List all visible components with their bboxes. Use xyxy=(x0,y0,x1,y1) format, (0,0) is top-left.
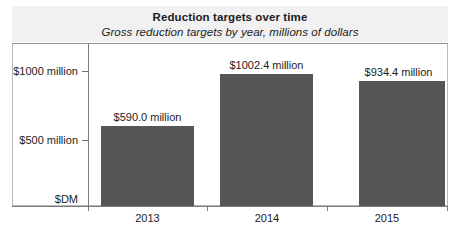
y-tick-label-zero: $DM xyxy=(0,193,78,205)
category-divider-left xyxy=(88,206,89,211)
bar-chart: Reduction targets over time Gross reduct… xyxy=(0,0,460,238)
bar-value-label-2014: $1002.4 million xyxy=(220,59,313,71)
category-divider-2 xyxy=(327,206,328,211)
y-tick-mark-1000 xyxy=(82,71,88,72)
category-divider-right xyxy=(447,206,448,211)
category-label-2015: 2015 xyxy=(327,212,447,224)
y-tick-mark-500 xyxy=(82,140,88,141)
category-label-2014: 2014 xyxy=(207,212,327,224)
bar-value-label-2015: $934.4 million xyxy=(352,66,445,78)
y-tick-label-1000: $1000 million xyxy=(0,65,78,77)
bar-2014 xyxy=(220,74,313,206)
y-axis-line xyxy=(88,43,89,207)
bar-2013 xyxy=(101,126,194,206)
category-divider-1 xyxy=(207,206,208,211)
category-label-2013: 2013 xyxy=(88,212,207,224)
chart-title: Reduction targets over time xyxy=(12,10,448,24)
chart-subtitle: Gross reduction targets by year, million… xyxy=(12,25,448,39)
bar-value-label-2013: $590.0 million xyxy=(101,111,194,123)
chart-header: Reduction targets over time Gross reduct… xyxy=(12,6,448,42)
bar-2015 xyxy=(359,81,445,206)
y-tick-label-500: $500 million xyxy=(0,134,78,146)
x-axis-line xyxy=(12,206,448,207)
